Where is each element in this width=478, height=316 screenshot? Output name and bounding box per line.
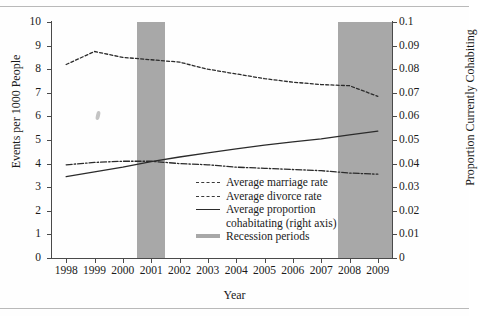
chart-legend: Average marriage rate Average divorce ra… [196,176,337,244]
series-line [66,161,378,174]
legend-swatch-dash-dot-line-icon [196,196,220,197]
legend-swatch-dashed-line-icon [196,182,220,183]
legend-label: Average divorce rate [226,190,322,202]
legend-swatch-solid-line-icon [196,209,220,210]
legend-swatch-shaded-band-icon [196,234,220,238]
legend-item-cohabitating: Average proportion cohabitating (right a… [196,203,337,230]
legend-item-divorce: Average divorce rate [196,190,337,204]
legend-item-marriage: Average marriage rate [196,176,337,190]
legend-label: Average proportion [226,203,316,215]
series-line [66,131,378,177]
legend-label: Recession periods [226,230,309,242]
x-axis-title: Year [0,288,469,303]
legend-label: Average marriage rate [226,176,328,188]
legend-label-secondline: cohabitating (right axis) [226,217,337,231]
y-axis-right-title: Proportion Currently Cohabiting [463,0,478,233]
legend-item-recession: Recession periods [196,230,337,244]
y-axis-left-title: Events per 1000 People [9,12,24,212]
series-line [66,52,378,97]
